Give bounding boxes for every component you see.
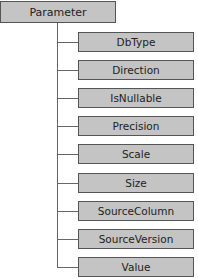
child-node-label: Value (122, 261, 151, 273)
tree-trunk-connector (57, 23, 58, 268)
child-node-label: DbType (117, 36, 156, 48)
child-node-dbtype: DbType (78, 32, 194, 52)
branch-connector (57, 239, 78, 240)
child-node-label: Size (125, 177, 147, 189)
child-node-isnullable: IsNullable (78, 88, 194, 108)
child-node-sourcecolumn: SourceColumn (78, 201, 194, 221)
child-node-label: IsNullable (110, 92, 161, 104)
child-node-label: Precision (113, 120, 160, 132)
child-node-label: SourceColumn (98, 205, 174, 217)
child-node-value: Value (78, 257, 194, 277)
child-node-label: Direction (112, 64, 159, 76)
branch-connector (57, 267, 78, 268)
child-node-direction: Direction (78, 60, 194, 80)
child-node-sourceversion: SourceVersion (78, 229, 194, 249)
branch-connector (57, 42, 78, 43)
branch-connector (57, 98, 78, 99)
root-node-parameter: Parameter (0, 1, 116, 23)
child-node-label: Scale (122, 148, 150, 160)
branch-connector (57, 211, 78, 212)
branch-connector (57, 126, 78, 127)
branch-connector (57, 183, 78, 184)
child-node-scale: Scale (78, 144, 194, 164)
branch-connector (57, 154, 78, 155)
child-node-size: Size (78, 173, 194, 193)
branch-connector (57, 70, 78, 71)
child-node-label: SourceVersion (99, 233, 174, 245)
root-node-label: Parameter (29, 6, 86, 19)
child-node-precision: Precision (78, 116, 194, 136)
